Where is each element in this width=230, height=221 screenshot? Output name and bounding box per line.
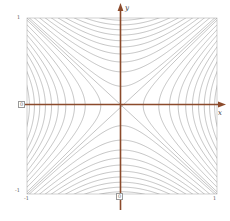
y-tick-origin: 0 [18, 101, 25, 108]
y-axis-label: y [125, 5, 129, 12]
y-tick-bottom: -1 [15, 188, 20, 193]
y-tick-top: 1 [17, 15, 20, 20]
x-tick-origin: 0 [116, 193, 123, 200]
contour-plot-figure: y x 1 -1 -1 1 0 0 [0, 0, 230, 221]
x-axis-label: x [218, 110, 222, 117]
x-tick-right: 1 [213, 196, 216, 201]
x-tick-left: -1 [24, 196, 29, 201]
plot-canvas [0, 0, 230, 221]
